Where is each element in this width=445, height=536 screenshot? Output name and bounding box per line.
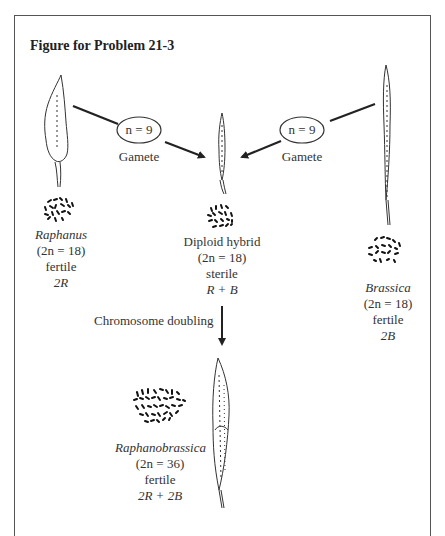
- raphanus-to-gamete-line: [73, 106, 118, 124]
- raphanus-chromosomes: (2n = 18): [22, 243, 100, 259]
- hybrid-genome: R + B: [172, 282, 272, 298]
- hybrid-pod-icon: [219, 113, 226, 194]
- gamete-right-label: n = 9: [280, 122, 324, 138]
- brassica-to-gamete-line: [330, 104, 375, 121]
- raphanobrassica-label: Raphanobrassica (2n = 36) fertile 2R + 2…: [115, 440, 205, 504]
- hybrid-name: Diploid hybrid: [172, 234, 272, 250]
- raphanobrassica-fertility: fertile: [115, 472, 205, 488]
- gamete-left-caption: Gamete: [112, 149, 166, 165]
- brassica-label: Brassica (2n = 18) fertile 2B: [358, 280, 418, 344]
- hybrid-chromosomes-icon: [208, 205, 232, 227]
- raphanus-fertility: fertile: [22, 259, 100, 275]
- raphanus-chromosomes-icon: [45, 198, 73, 221]
- brassica-fertility: fertile: [358, 312, 418, 328]
- raphanus-label: Raphanus (2n = 18) fertile 2R: [22, 227, 100, 291]
- raphanus-pod-icon: [45, 75, 68, 187]
- hybrid-label: Diploid hybrid (2n = 18) sterile R + B: [172, 234, 272, 298]
- brassica-chromosomes-icon: [369, 237, 400, 262]
- gamete-right-caption: Gamete: [275, 149, 329, 165]
- hybrid-chromosomes: (2n = 18): [172, 250, 272, 266]
- gamete-left-label: n = 9: [117, 122, 161, 138]
- brassica-name: Brassica: [358, 280, 418, 296]
- raphanobrassica-pod-icon: [213, 358, 229, 508]
- gamete-to-hybrid-arrow: [165, 142, 204, 157]
- raphanus-name: Raphanus: [22, 227, 100, 243]
- raphanobrassica-chromosomes: (2n = 36): [115, 456, 205, 472]
- raphanobrassica-genome: 2R + 2B: [115, 488, 205, 504]
- raphanobrassica-chromosomes-icon: [134, 389, 185, 422]
- chromosome-doubling-label: Chromosome doubling: [94, 313, 218, 329]
- brassica-chromosomes: (2n = 18): [358, 296, 418, 312]
- raphanus-genome: 2R: [22, 275, 100, 291]
- raphanobrassica-name: Raphanobrassica: [115, 440, 205, 456]
- brassica-genome: 2B: [358, 328, 418, 344]
- hybrid-fertility: sterile: [172, 266, 272, 282]
- brassica-pod-icon: [383, 65, 390, 225]
